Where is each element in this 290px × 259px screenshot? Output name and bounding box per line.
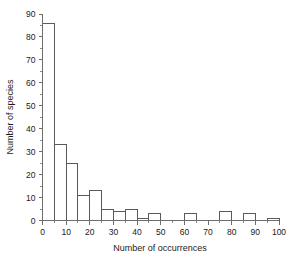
y-axis-tick-label: 90 <box>26 9 36 19</box>
x-axis-tick-label: 40 <box>132 227 142 237</box>
x-axis-tick-label: 50 <box>156 227 166 237</box>
y-tick-labels-group: 0102030405060708090 <box>26 9 36 226</box>
histogram-bar <box>90 191 102 221</box>
y-axis-tick-label: 20 <box>26 170 36 180</box>
y-axis-tick-label: 60 <box>26 78 36 88</box>
y-axis-tick-label: 30 <box>26 147 36 157</box>
histogram-figure: 0102030405060708090 01020304050607080901… <box>0 0 290 259</box>
histogram-bar <box>244 214 256 221</box>
x-axis-tick-label: 90 <box>251 227 261 237</box>
x-axis-tick-label: 100 <box>272 227 286 237</box>
bars-group <box>43 23 280 220</box>
y-axis-tick-label: 70 <box>26 55 36 65</box>
y-axis-tick-label: 10 <box>26 193 36 203</box>
x-axis-tick-label: 0 <box>40 227 45 237</box>
y-axis-tick-label: 0 <box>31 216 36 226</box>
x-tick-labels-group: 0102030405060708090100 <box>40 227 286 237</box>
histogram-bar <box>43 23 55 220</box>
histogram-bar <box>184 214 196 221</box>
y-axis-tick-label: 80 <box>26 32 36 42</box>
y-axis-tick-label: 50 <box>26 101 36 111</box>
x-axis-tick-label: 60 <box>180 227 190 237</box>
histogram-bar <box>78 195 90 220</box>
histogram-plot: 0102030405060708090 01020304050607080901… <box>0 0 290 259</box>
histogram-bar <box>113 211 125 220</box>
histogram-bar <box>149 214 161 221</box>
x-axis-title: Number of occurrences <box>113 243 207 253</box>
y-axis-tick-label: 40 <box>26 124 36 134</box>
histogram-bar <box>220 211 232 220</box>
y-axis-title: Number of species <box>5 79 15 155</box>
histogram-bar <box>102 209 114 220</box>
x-axis-tick-label: 20 <box>85 227 95 237</box>
histogram-bar <box>54 145 66 221</box>
x-axis-tick-label: 70 <box>203 227 213 237</box>
x-axis-tick-label: 80 <box>227 227 237 237</box>
histogram-bar <box>66 163 78 220</box>
x-axis-tick-label: 10 <box>61 227 71 237</box>
histogram-bar <box>125 209 137 220</box>
x-axis-tick-label: 30 <box>109 227 119 237</box>
